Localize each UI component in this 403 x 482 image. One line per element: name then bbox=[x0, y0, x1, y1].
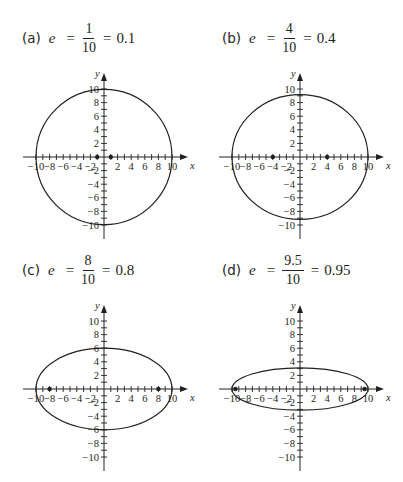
y-tick-label: −10 bbox=[83, 220, 99, 231]
plot-b: −10−8−6−4−2246810−10−8−6−4−2246810xy bbox=[200, 0, 403, 240]
y-tick-label: −6 bbox=[284, 424, 295, 435]
y-tick-label: 8 bbox=[290, 97, 295, 108]
y-tick-label: 10 bbox=[89, 316, 100, 327]
x-tick-label: −6 bbox=[254, 161, 265, 172]
focus-point bbox=[362, 387, 366, 391]
y-tick-label: −8 bbox=[284, 438, 295, 449]
x-tick-label: −4 bbox=[267, 161, 279, 172]
x-axis-arrow-icon bbox=[376, 154, 384, 160]
x-tick-label: 8 bbox=[156, 393, 161, 404]
y-tick-label: −10 bbox=[83, 452, 99, 463]
panel-d: (d) e = 9.5 10 = 0.95 −10−8−6−4−2246810−… bbox=[200, 232, 400, 472]
plot-c: −10−8−6−4−2246810−10−8−6−4−2246810xy bbox=[0, 232, 200, 482]
x-tick-label: −8 bbox=[44, 161, 55, 172]
x-tick-label: 2 bbox=[311, 393, 316, 404]
y-tick-label: −2 bbox=[88, 165, 99, 176]
y-tick-label: −8 bbox=[88, 438, 99, 449]
x-tick-label: 4 bbox=[325, 161, 331, 172]
y-tick-label: 4 bbox=[94, 356, 100, 367]
y-tick-label: −4 bbox=[284, 179, 296, 190]
x-tick-label: −8 bbox=[44, 393, 55, 404]
x-tick-label: 2 bbox=[311, 161, 316, 172]
x-tick-label: −8 bbox=[240, 161, 251, 172]
x-tick-label: 8 bbox=[352, 161, 357, 172]
y-tick-label: 8 bbox=[94, 329, 99, 340]
y-tick-label: 6 bbox=[290, 111, 295, 122]
y-axis-label: y bbox=[94, 68, 100, 79]
x-tick-label: 4 bbox=[129, 161, 135, 172]
y-tick-label: 8 bbox=[290, 329, 295, 340]
y-tick-label: 6 bbox=[94, 111, 99, 122]
y-tick-label: −2 bbox=[284, 397, 295, 408]
focus-point bbox=[109, 155, 113, 159]
x-axis-label: x bbox=[385, 160, 391, 171]
y-tick-label: −8 bbox=[88, 206, 99, 217]
focus-point bbox=[233, 387, 237, 391]
plot-a: −10−8−6−4−2246810−10−8−6−4−2246810xy bbox=[0, 0, 200, 240]
x-axis-arrow-icon bbox=[180, 386, 188, 392]
y-tick-label: −4 bbox=[88, 179, 100, 190]
x-tick-label: −4 bbox=[267, 393, 279, 404]
y-tick-label: −6 bbox=[284, 192, 295, 203]
y-tick-label: 4 bbox=[94, 124, 100, 135]
focus-point bbox=[325, 155, 329, 159]
y-tick-label: −4 bbox=[284, 411, 296, 422]
x-tick-label: 4 bbox=[325, 393, 331, 404]
x-axis-label: x bbox=[385, 392, 391, 403]
x-tick-label: −6 bbox=[58, 161, 69, 172]
x-tick-label: −6 bbox=[58, 393, 69, 404]
x-tick-label: 6 bbox=[338, 161, 343, 172]
y-tick-label: −2 bbox=[284, 165, 295, 176]
y-axis-label: y bbox=[290, 300, 296, 311]
y-tick-label: 10 bbox=[285, 84, 296, 95]
focus-point bbox=[271, 155, 275, 159]
y-tick-label: 2 bbox=[94, 138, 99, 149]
y-tick-label: 10 bbox=[285, 316, 296, 327]
focus-point bbox=[156, 387, 160, 391]
x-tick-label: 6 bbox=[142, 393, 147, 404]
y-axis-arrow-icon bbox=[297, 73, 303, 81]
x-tick-label: 8 bbox=[156, 161, 161, 172]
focus-point bbox=[47, 387, 51, 391]
axes: −10−8−6−4−2246810−10−8−6−4−2246810xy bbox=[219, 68, 391, 239]
x-tick-label: −4 bbox=[71, 393, 83, 404]
y-axis-arrow-icon bbox=[101, 305, 107, 313]
x-axis-arrow-icon bbox=[180, 154, 188, 160]
x-tick-label: 6 bbox=[142, 161, 147, 172]
y-axis-label: y bbox=[290, 68, 296, 79]
y-tick-label: 10 bbox=[89, 84, 100, 95]
axes: −10−8−6−4−2246810−10−8−6−4−2246810xy bbox=[23, 68, 195, 239]
panel-c: (c) e = 8 10 = 0.8 −10−8−6−4−2246810−10−… bbox=[0, 232, 200, 472]
x-axis-arrow-icon bbox=[376, 386, 384, 392]
x-tick-label: 2 bbox=[115, 161, 120, 172]
y-tick-label: 4 bbox=[290, 124, 296, 135]
panel-a: (a) e = 1 10 = 0.1 −10−8−6−4−2246810−10−… bbox=[0, 0, 200, 240]
x-tick-label: 2 bbox=[115, 393, 120, 404]
plot-d: −10−8−6−4−2246810−10−8−6−4−2246810xy bbox=[200, 232, 403, 482]
y-tick-label: 4 bbox=[290, 356, 296, 367]
x-tick-label: 10 bbox=[363, 393, 374, 404]
y-tick-label: 8 bbox=[94, 97, 99, 108]
x-tick-label: −6 bbox=[254, 393, 265, 404]
y-axis-arrow-icon bbox=[101, 73, 107, 81]
y-tick-label: 2 bbox=[94, 370, 99, 381]
x-axis-label: x bbox=[189, 160, 195, 171]
x-axis-label: x bbox=[189, 392, 195, 403]
x-tick-label: −4 bbox=[71, 161, 83, 172]
y-tick-label: −8 bbox=[284, 206, 295, 217]
axes: −10−8−6−4−2246810−10−8−6−4−2246810xy bbox=[219, 300, 391, 471]
y-axis-label: y bbox=[94, 300, 100, 311]
y-tick-label: −6 bbox=[88, 192, 99, 203]
focus-point bbox=[95, 155, 99, 159]
y-tick-label: −4 bbox=[88, 411, 100, 422]
axes: −10−8−6−4−2246810−10−8−6−4−2246810xy bbox=[23, 300, 195, 471]
y-tick-label: −10 bbox=[279, 452, 295, 463]
x-tick-label: −10 bbox=[224, 393, 240, 404]
y-tick-label: −10 bbox=[279, 220, 295, 231]
x-tick-label: 4 bbox=[129, 393, 135, 404]
panel-b: (b) e = 4 10 = 0.4 −10−8−6−4−2246810−10−… bbox=[200, 0, 400, 240]
y-tick-label: −2 bbox=[88, 397, 99, 408]
y-tick-label: 6 bbox=[290, 343, 295, 354]
y-tick-label: 2 bbox=[290, 370, 295, 381]
y-tick-label: 2 bbox=[290, 138, 295, 149]
